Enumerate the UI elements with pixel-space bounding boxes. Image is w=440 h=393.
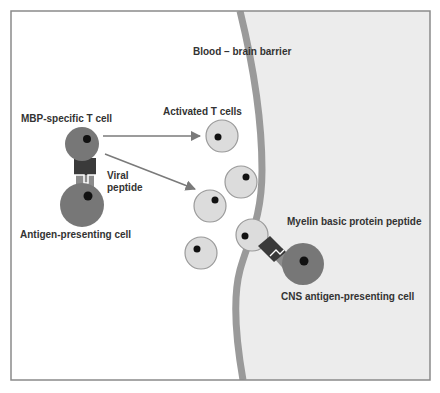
apc-label: Antigen-presenting cell <box>20 229 131 240</box>
activated-t-cell <box>185 237 217 269</box>
cns-apc-label: CNS antigen-presenting cell <box>281 291 415 302</box>
activated-t-cells-label: Activated T cells <box>163 106 242 117</box>
apc-nucleus <box>84 192 93 201</box>
diagram-canvas: Blood – brain barrier MBP-specific T cel… <box>0 0 440 393</box>
activated-t-cell <box>206 120 238 152</box>
activated-t-cell <box>225 166 257 198</box>
activated-t-cell-nucleus <box>243 174 250 181</box>
activated-t-cell <box>194 190 226 222</box>
viral-peptide-label-1: Viral <box>107 170 129 181</box>
antigen-presenting-cell <box>60 183 104 227</box>
myelin-peptide-label: Myelin basic protein peptide <box>287 216 422 227</box>
activated-t-cell-nucleus <box>215 134 222 141</box>
mbp-t-cell-nucleus <box>83 135 91 143</box>
activated-t-cell-nucleus <box>212 197 219 204</box>
cns-apc-nucleus <box>300 257 309 266</box>
mbp-t-cell <box>65 127 99 161</box>
mbp-t-cell-label: MBP-specific T cell <box>21 113 112 124</box>
barrier-label: Blood – brain barrier <box>193 46 291 57</box>
viral-peptide-label-2: peptide <box>107 182 143 193</box>
activated-t-cell-nucleus <box>242 233 249 240</box>
brain-region <box>236 11 430 380</box>
activated-t-cell-nucleus <box>194 246 201 253</box>
